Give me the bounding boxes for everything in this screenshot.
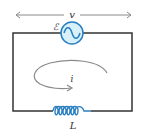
inductor-icon <box>53 106 91 114</box>
voltage-label: v <box>69 9 75 20</box>
emf-label: ℰ <box>53 22 60 32</box>
current-label: i <box>71 74 74 84</box>
circuit-diagram: v ℰ i L <box>0 0 141 136</box>
inductor-label: L <box>69 120 77 131</box>
ac-source-icon <box>61 22 83 44</box>
